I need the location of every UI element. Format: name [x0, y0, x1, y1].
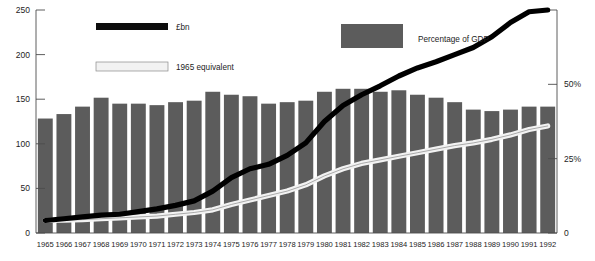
bar-1991 [522, 107, 537, 233]
x-axis-label-1970: 1970 [130, 240, 147, 249]
x-axis-label-1991: 1991 [521, 240, 538, 249]
x-axis-label-1974: 1974 [204, 240, 221, 249]
x-axis-label-1981: 1981 [335, 240, 352, 249]
x-axis-label-1988: 1988 [465, 240, 482, 249]
legend-label-1965-equivalent: 1965 equivalent [176, 63, 235, 72]
x-axis-label-1987: 1987 [446, 240, 463, 249]
left-axis-label-50: 50 [21, 183, 31, 193]
bar-1990 [503, 110, 518, 233]
x-axis-label-1976: 1976 [242, 240, 259, 249]
x-axis-label-1968: 1968 [93, 240, 110, 249]
bar-1988 [466, 110, 481, 233]
bar-1984 [391, 90, 406, 233]
x-axis-label-1966: 1966 [55, 240, 72, 249]
right-axis-label-25: 25% [564, 154, 581, 164]
x-axis-label-1983: 1983 [372, 240, 389, 249]
x-axis-label-1980: 1980 [316, 240, 333, 249]
x-axis-label-1971: 1971 [148, 240, 165, 249]
bar-1980 [317, 92, 332, 233]
x-axis-label-1972: 1972 [167, 240, 184, 249]
x-axis-label-1965: 1965 [37, 240, 54, 249]
legend-swatch-gbp-bn [96, 23, 168, 30]
combo-bar-line-chart: 050100150200250 025%50% 1965196619671968… [0, 0, 595, 261]
x-axis-label-1984: 1984 [390, 240, 407, 249]
bar-1977 [261, 104, 276, 233]
chart-container: 050100150200250 025%50% 1965196619671968… [0, 0, 595, 261]
bar-1976 [243, 96, 258, 233]
right-axis-label-50: 50% [564, 79, 581, 89]
x-axis-label-1982: 1982 [353, 240, 370, 249]
x-axis-label-1989: 1989 [483, 240, 500, 249]
left-axis-label-250: 250 [16, 5, 30, 15]
x-axis-tick-labels: 1965196619671968196919701971197219731974… [37, 240, 556, 249]
x-axis-label-1992: 1992 [539, 240, 556, 249]
x-axis-label-1985: 1985 [409, 240, 426, 249]
bar-1965 [38, 119, 53, 233]
x-axis-label-1977: 1977 [260, 240, 277, 249]
x-axis-label-1973: 1973 [186, 240, 203, 249]
x-axis-label-1990: 1990 [502, 240, 519, 249]
bar-1986 [429, 98, 444, 233]
bar-1985 [410, 95, 425, 233]
right-axis-label-0: 0 [564, 228, 569, 238]
x-axis-label-1986: 1986 [428, 240, 445, 249]
legend-swatch-1965-equivalent [96, 62, 168, 71]
left-axis-label-0: 0 [25, 228, 30, 238]
bar-1987 [447, 102, 462, 233]
legend-label-percentage-of-gdp: Percentage of GDP [418, 35, 490, 44]
bar-1966 [56, 114, 71, 233]
bar-1978 [280, 102, 295, 233]
x-axis-label-1967: 1967 [74, 240, 91, 249]
bar-1979 [298, 101, 313, 233]
bar-1989 [484, 111, 499, 233]
x-axis-label-1979: 1979 [297, 240, 314, 249]
left-axis-label-200: 200 [16, 50, 30, 60]
x-axis-label-1969: 1969 [111, 240, 128, 249]
left-axis-label-100: 100 [16, 139, 30, 149]
bar-1975 [224, 95, 239, 233]
legend-swatch-percentage-of-gdp [341, 24, 403, 48]
x-axis-label-1975: 1975 [223, 240, 240, 249]
legend-label-gbp-bn: £bn [176, 23, 190, 32]
x-axis-label-1978: 1978 [279, 240, 296, 249]
left-axis-label-150: 150 [16, 94, 30, 104]
